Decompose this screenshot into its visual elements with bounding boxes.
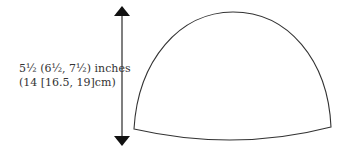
arrow-down-icon [114,136,130,146]
measurement-cm: (14 [16.5, 19]cm) [19,76,131,90]
measurement-inches: 5½ (6½, 7½) inches [19,62,131,76]
measurement-label: 5½ (6½, 7½) inches (14 [16.5, 19]cm) [19,62,131,90]
arrow-up-icon [114,6,130,16]
hat-outline [134,12,331,140]
